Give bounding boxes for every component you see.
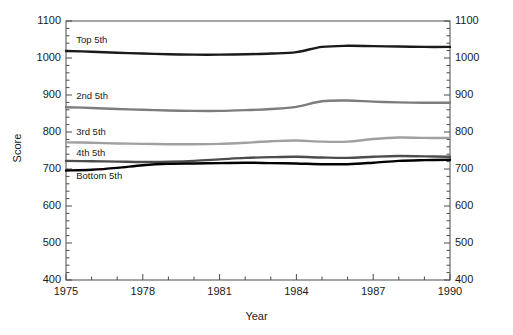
y-axis-tick-label-right: 800 <box>455 125 489 137</box>
x-axis-tick-label: 1978 <box>123 285 163 297</box>
x-axis-tick-label: 1990 <box>430 285 470 297</box>
y-axis-tick-label: 1000 <box>27 51 61 63</box>
y-axis-tick-label: 900 <box>27 88 61 100</box>
y-axis-tick-label-right: 700 <box>455 162 489 174</box>
x-axis-tick-label: 1987 <box>353 285 393 297</box>
chart-figure: Score Year 11001100100010009009008008007… <box>0 0 513 335</box>
series-line-2nd-5th <box>66 100 450 110</box>
y-axis-tick-label: 600 <box>27 199 61 211</box>
y-axis-tick-label-right: 500 <box>455 236 489 248</box>
y-axis-tick-label: 700 <box>27 162 61 174</box>
x-axis-tick-label: 1984 <box>276 285 316 297</box>
y-axis-tick-label-right: 600 <box>455 199 489 211</box>
y-axis-tick-label: 1100 <box>27 14 61 26</box>
series-label-top-5th: Top 5th <box>76 34 107 45</box>
series-label-2nd-5th: 2nd 5th <box>76 90 108 101</box>
plot-frame <box>66 21 450 280</box>
x-axis-tick-label: 1981 <box>200 285 240 297</box>
y-axis-tick-label-right: 900 <box>455 88 489 100</box>
series-line-top-5th <box>66 46 450 55</box>
series-label-3rd-5th: 3rd 5th <box>76 126 106 137</box>
y-axis-tick-label-right: 1000 <box>455 51 489 63</box>
series-line-3rd-5th <box>66 138 450 145</box>
y-axis-tick-label: 800 <box>27 125 61 137</box>
y-axis-tick-label-right: 400 <box>455 273 489 285</box>
y-axis-tick-label: 400 <box>27 273 61 285</box>
x-axis-tick-label: 1975 <box>46 285 86 297</box>
y-axis-tick-label: 500 <box>27 236 61 248</box>
y-axis-tick-label-right: 1100 <box>455 14 489 26</box>
series-label-bottom-5th: Bottom 5th <box>76 170 122 181</box>
series-label-4th-5th: 4th 5th <box>76 147 105 158</box>
